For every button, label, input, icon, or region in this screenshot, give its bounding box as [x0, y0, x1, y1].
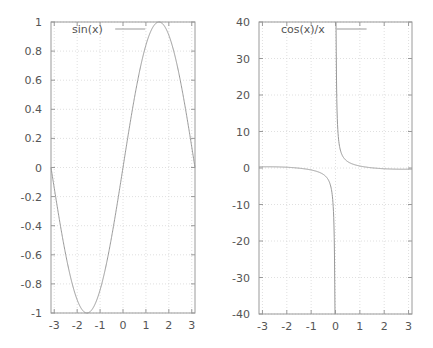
y-tick-label: 0.4 — [25, 103, 43, 116]
cos-over-x-plot: -3-2-10123403020100-10-20-30-40cos(x)/x — [232, 16, 412, 333]
legend-label: cos(x)/x — [281, 23, 325, 36]
y-tick-label: 40 — [236, 16, 250, 29]
x-tick-label: -2 — [72, 319, 83, 332]
x-tick-label: -3 — [49, 319, 60, 332]
x-tick-label: -3 — [257, 320, 268, 333]
y-tick-label: -0.8 — [21, 278, 42, 291]
chart-canvas: -3-2-1012310.80.60.40.20-0.2-0.4-0.6-0.8… — [0, 0, 433, 348]
x-tick-label: 0 — [120, 319, 127, 332]
grid-lines — [259, 22, 412, 314]
x-tick-label: 1 — [142, 319, 149, 332]
sin-plot: -3-2-1012310.80.60.40.20-0.2-0.4-0.6-0.8… — [21, 16, 196, 332]
y-tick-label: 0.2 — [25, 132, 43, 145]
series-line — [259, 22, 412, 314]
x-tick-label: 3 — [405, 320, 412, 333]
legend-label: sin(x) — [72, 23, 103, 36]
x-tick-label: 2 — [165, 319, 172, 332]
y-tick-label: 0 — [243, 162, 250, 175]
y-tick-label: 10 — [236, 126, 250, 139]
y-tick-label: 0.8 — [25, 45, 43, 58]
x-tick-label: 0 — [332, 320, 339, 333]
y-tick-label: -10 — [232, 199, 250, 212]
y-tick-label: 0.6 — [25, 74, 43, 87]
legend: cos(x)/x — [281, 23, 367, 36]
y-tick-label: -30 — [232, 272, 250, 285]
y-tick-label: -0.2 — [21, 191, 42, 204]
y-tick-label: 30 — [236, 53, 250, 66]
y-tick-label: -0.6 — [21, 249, 42, 262]
x-tick-label: -1 — [95, 319, 106, 332]
y-tick-label: -1 — [31, 307, 42, 320]
y-tick-label: -40 — [232, 308, 250, 321]
y-tick-label: -0.4 — [21, 220, 42, 233]
x-tick-label: -2 — [281, 320, 292, 333]
x-tick-label: 1 — [356, 320, 363, 333]
plot-frame — [259, 22, 412, 314]
x-tick-label: -1 — [306, 320, 317, 333]
y-tick-label: 0 — [35, 162, 42, 175]
legend: sin(x) — [72, 23, 145, 36]
x-tick-label: 2 — [381, 320, 388, 333]
x-tick-label: 3 — [188, 319, 195, 332]
y-tick-label: -20 — [232, 235, 250, 248]
y-tick-label: 1 — [35, 16, 42, 29]
y-tick-label: 20 — [236, 89, 250, 102]
